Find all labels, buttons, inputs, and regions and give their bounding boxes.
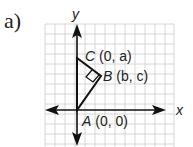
point-c-label: C (0, a) <box>85 48 132 64</box>
y-axis-label: y <box>72 6 79 22</box>
point-a-label: A (0, 0) <box>82 113 128 129</box>
x-axis-label: x <box>176 102 183 118</box>
point-b-label: B (b, c) <box>103 68 148 84</box>
